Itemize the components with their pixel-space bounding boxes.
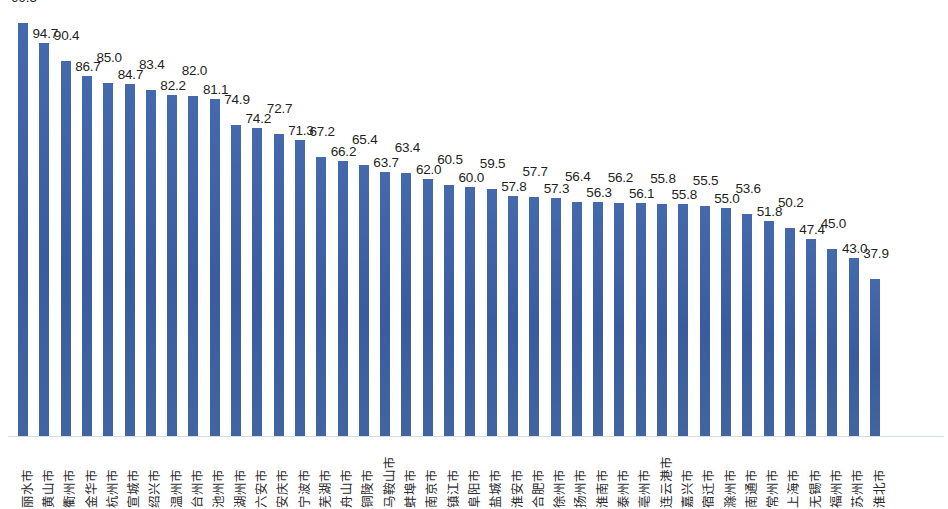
- bar[interactable]: [401, 173, 411, 436]
- bar-value-label: 83.4: [136, 57, 168, 72]
- category-axis-label-text: 南京市: [426, 468, 439, 507]
- bar[interactable]: [295, 140, 305, 436]
- category-axis-label-text: 南通市: [745, 468, 758, 507]
- category-axis-label-text: 阜阳市: [468, 468, 481, 507]
- bar[interactable]: [785, 228, 795, 436]
- category-axis-label: 铜陵市: [359, 437, 380, 507]
- bar[interactable]: [103, 83, 113, 436]
- bar[interactable]: [529, 197, 539, 436]
- category-axis-label: 南通市: [742, 437, 763, 507]
- bar[interactable]: [870, 279, 880, 436]
- category-axis-label-text: 丽水市: [21, 468, 34, 507]
- category-axis-label-text: 淮安市: [511, 468, 524, 507]
- bar[interactable]: [39, 43, 49, 436]
- category-axis-label-text: 杭州市: [106, 468, 119, 507]
- category-axis-label: 苏州市: [849, 437, 870, 507]
- category-axis-label: 马鞍山市: [380, 437, 401, 507]
- bar[interactable]: [572, 202, 582, 436]
- category-axis-label: 淮安市: [508, 437, 529, 507]
- bar-value-label: 63.4: [391, 140, 423, 155]
- category-axis-label: 湖州市: [231, 437, 252, 507]
- category-axis-label-text: 马鞍山市: [383, 455, 396, 507]
- bar[interactable]: [316, 157, 326, 436]
- category-axis-label: 金华市: [82, 437, 103, 507]
- bar[interactable]: [465, 187, 475, 436]
- category-axis-label-text: 宣城市: [128, 468, 141, 507]
- bar[interactable]: [487, 189, 497, 436]
- bar[interactable]: [444, 185, 454, 436]
- bar-value-label: 37.9: [860, 246, 892, 261]
- category-axis-label: 亳州市: [636, 437, 657, 507]
- category-axis-label: 连云港市: [657, 437, 678, 507]
- category-axis-label-text: 亳州市: [639, 468, 652, 507]
- bar-value-label: 57.8: [498, 179, 530, 194]
- category-axis-label: 舟山市: [338, 437, 359, 507]
- bar[interactable]: [380, 172, 390, 436]
- bar[interactable]: [274, 134, 284, 436]
- bar[interactable]: [721, 208, 731, 436]
- bar[interactable]: [423, 179, 433, 436]
- category-axis-label-text: 衢州市: [64, 468, 77, 507]
- bar[interactable]: [125, 84, 135, 436]
- bar[interactable]: [614, 203, 624, 436]
- bar[interactable]: [657, 204, 667, 436]
- category-axis-label-text: 黄山市: [42, 468, 55, 507]
- bar[interactable]: [827, 249, 837, 436]
- bar-value-label: 56.4: [562, 169, 594, 184]
- category-axis-label-text: 安庆市: [277, 468, 290, 507]
- category-axis-label: 常州市: [764, 437, 785, 507]
- category-axis-label-text: 六安市: [255, 468, 268, 507]
- category-axis-label-text: 连云港市: [660, 455, 673, 507]
- bar[interactable]: [338, 161, 348, 436]
- bar[interactable]: [252, 128, 262, 436]
- bar-value-label: 67.2: [306, 124, 338, 139]
- category-axis-label-text: 铜陵市: [362, 468, 375, 507]
- category-axis-label-text: 泰州市: [618, 468, 631, 507]
- category-axis-label-text: 蚌埠市: [405, 468, 418, 507]
- bar[interactable]: [508, 196, 518, 436]
- category-axis-label: 丽水市: [18, 437, 39, 507]
- bar[interactable]: [359, 165, 369, 436]
- bar-value-label: 50.2: [775, 195, 807, 210]
- category-axis-label: 六安市: [252, 437, 273, 507]
- bar[interactable]: [636, 203, 646, 436]
- bar[interactable]: [678, 204, 688, 436]
- category-axis-label-text: 芜湖市: [319, 468, 332, 507]
- category-axis-label-text: 嘉兴市: [681, 468, 694, 507]
- bar[interactable]: [61, 61, 71, 436]
- bar[interactable]: [82, 76, 92, 436]
- category-axis-label: 衢州市: [61, 437, 82, 507]
- category-axis-label-text: 滁州市: [724, 468, 737, 507]
- bar[interactable]: [18, 23, 28, 436]
- bar-value-label: 56.1: [626, 186, 658, 201]
- category-axis-label: 泰州市: [614, 437, 635, 507]
- bar[interactable]: [742, 214, 752, 436]
- bar-value-label: 60.5: [434, 152, 466, 167]
- bar[interactable]: [188, 96, 198, 436]
- bar[interactable]: [593, 202, 603, 436]
- bar[interactable]: [764, 221, 774, 436]
- bar-value-label: 63.7: [370, 155, 402, 170]
- bar[interactable]: [210, 99, 220, 436]
- bar-value-label: 72.7: [264, 101, 296, 116]
- bar[interactable]: [551, 198, 561, 436]
- bar[interactable]: [167, 95, 177, 436]
- category-axis-label: 盐城市: [487, 437, 508, 507]
- bar-value-label: 55.5: [690, 173, 722, 188]
- category-axis-label: 宣城市: [125, 437, 146, 507]
- bar[interactable]: [849, 258, 859, 436]
- category-axis-label: 杭州市: [103, 437, 124, 507]
- category-axis-label-text: 常州市: [767, 468, 780, 507]
- bar[interactable]: [700, 206, 710, 436]
- bar[interactable]: [806, 239, 816, 436]
- bar[interactable]: [146, 90, 156, 436]
- category-axis-label-text: 镇江市: [447, 468, 460, 507]
- bar-value-label: 55.8: [647, 171, 679, 186]
- category-axis-label: 阜阳市: [465, 437, 486, 507]
- bar-value-label: 90.4: [51, 28, 83, 43]
- category-axis-label-text: 淮南市: [596, 468, 609, 507]
- bar[interactable]: [231, 125, 241, 436]
- bar-value-label: 57.7: [519, 164, 551, 179]
- category-axis-label: 福州市: [827, 437, 848, 507]
- category-axis-label-text: 苏州市: [852, 468, 865, 507]
